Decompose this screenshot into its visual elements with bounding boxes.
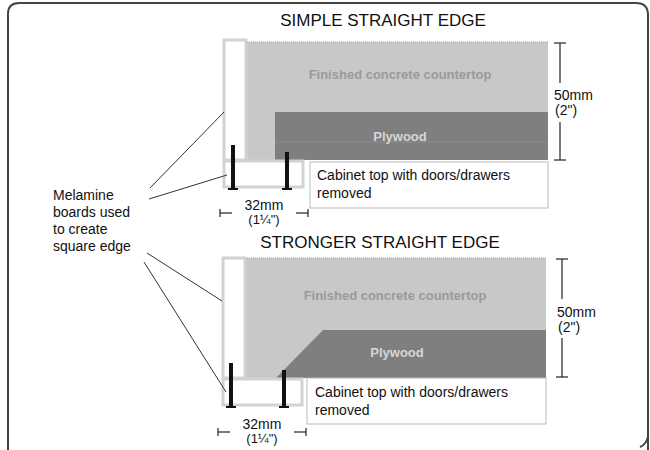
section-stronger-straight-edge: STRONGER STRAIGHT EDGE Finished concrete…	[218, 233, 596, 446]
section-simple-straight-edge: SIMPLE STRAIGHT EDGE Finished concrete c…	[220, 11, 593, 227]
section-title: SIMPLE STRAIGHT EDGE	[280, 11, 486, 30]
svg-text:(2"): (2")	[558, 319, 580, 335]
melamine-bottom-board	[224, 161, 303, 187]
svg-text:(1¼"): (1¼")	[248, 212, 279, 227]
leader-line	[147, 253, 222, 301]
melamine-side-board	[223, 258, 245, 378]
cabinet-label-line1: Cabinet top with doors/drawers	[315, 384, 508, 400]
leader-line	[144, 262, 226, 392]
width-dimension: 32mm (1¼")	[220, 197, 308, 227]
cabinet-label-line2: removed	[317, 185, 371, 201]
concrete-label: Finished concrete countertop	[304, 288, 487, 303]
callout-line3: to create	[53, 221, 108, 237]
svg-text:50mm: 50mm	[554, 87, 593, 103]
cabinet-label-line2: removed	[315, 402, 369, 418]
frame-corner	[640, 436, 648, 447]
plywood-label: Plywood	[370, 345, 424, 360]
leader-line	[150, 112, 224, 188]
svg-text:32mm: 32mm	[243, 416, 282, 432]
svg-text:32mm: 32mm	[245, 197, 284, 213]
height-dimension: 50mm (2")	[556, 259, 596, 377]
section-title: STRONGER STRAIGHT EDGE	[260, 233, 500, 252]
width-dimension: 32mm (1¼")	[218, 416, 306, 446]
melamine-bottom-board	[223, 379, 302, 405]
melamine-side-board	[224, 40, 246, 160]
svg-text:(1¼"): (1¼")	[246, 431, 277, 446]
svg-text:50mm: 50mm	[557, 304, 596, 320]
leader-line	[149, 175, 227, 199]
plywood-label: Plywood	[373, 129, 427, 144]
melamine-callout: Melamine boards used to create square ed…	[53, 112, 227, 392]
svg-text:(2"): (2")	[555, 102, 577, 118]
diagram-canvas: SIMPLE STRAIGHT EDGE Finished concrete c…	[0, 0, 650, 450]
callout-line1: Melamine	[53, 187, 114, 203]
concrete-label: Finished concrete countertop	[309, 67, 492, 82]
cabinet-label-line1: Cabinet top with doors/drawers	[317, 167, 510, 183]
height-dimension: 50mm (2")	[554, 43, 593, 160]
callout-line4: square edge	[53, 238, 131, 254]
callout-line2: boards used	[53, 204, 130, 220]
